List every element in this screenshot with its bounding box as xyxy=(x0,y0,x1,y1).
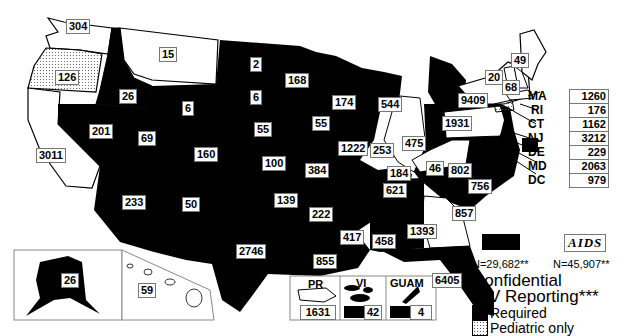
label-ky: 184 xyxy=(387,166,411,181)
label-tn: 621 xyxy=(383,183,407,198)
label-ks: 100 xyxy=(262,156,286,171)
label-mt: 15 xyxy=(159,47,177,62)
side-abbr-md: MD xyxy=(528,159,547,173)
side-abbr-de: DE xyxy=(528,145,545,159)
label-mi: 544 xyxy=(378,97,402,112)
label-wy: 6 xyxy=(182,101,194,116)
label-la: 855 xyxy=(313,254,337,269)
side-abbr-nj: NJ xyxy=(528,131,543,145)
hiv-legend-box xyxy=(482,234,520,250)
label-az: 233 xyxy=(122,195,146,210)
label-id: 26 xyxy=(119,89,137,104)
label-ms: 417 xyxy=(340,230,364,245)
side-value-md: 2063 xyxy=(569,159,609,174)
label-wa: 304 xyxy=(66,19,90,34)
territory-value-guam: 4 xyxy=(410,305,432,320)
label-ak: 26 xyxy=(61,273,79,288)
label-tx: 2746 xyxy=(236,244,266,259)
label-or: 126 xyxy=(55,70,79,85)
label-ca: 3011 xyxy=(36,148,66,163)
legend-label-pediatric: Pediatric only xyxy=(490,320,574,336)
side-value-ri: 176 xyxy=(569,103,609,118)
territory-label-vi: VI xyxy=(356,277,366,289)
label-ia: 55 xyxy=(312,116,330,131)
label-co: 160 xyxy=(194,147,218,162)
label-nd: 2 xyxy=(250,57,262,72)
side-value-nj: 3212 xyxy=(569,131,609,146)
label-nh: 68 xyxy=(502,80,520,95)
label-ar: 222 xyxy=(309,207,333,222)
side-abbr-ct: CT xyxy=(528,117,544,131)
side-value-ct: 1162 xyxy=(569,117,609,132)
label-va: 802 xyxy=(448,163,472,178)
label-wi: 174 xyxy=(332,95,356,110)
label-sd: 6 xyxy=(250,90,262,105)
label-nm: 50 xyxy=(182,197,200,212)
label-ut: 69 xyxy=(138,131,156,146)
aids-legend-box: AIDS xyxy=(564,234,606,252)
label-pa: 1931 xyxy=(442,116,472,131)
label-sc: 857 xyxy=(452,206,476,221)
label-oh: 475 xyxy=(402,136,426,151)
hiv-count: N=29,682** xyxy=(472,258,529,270)
side-value-de: 229 xyxy=(569,145,609,160)
legend-item-required: Required xyxy=(472,305,547,321)
label-ny: 9409 xyxy=(458,93,488,108)
side-abbr-dc: DC xyxy=(528,173,545,187)
label-vt: 20 xyxy=(485,70,503,85)
label-me: 49 xyxy=(511,53,529,68)
label-mn: 168 xyxy=(285,73,309,88)
label-mo: 384 xyxy=(305,163,329,178)
label-ne: 55 xyxy=(254,122,272,137)
legend-item-pediatric: Pediatric only xyxy=(472,320,574,336)
label-hi: 59 xyxy=(138,283,156,298)
required-swatch-icon xyxy=(472,305,488,321)
side-value-dc: 979 xyxy=(569,173,609,188)
territory-value-vi: 42 xyxy=(364,305,382,320)
side-value-ma: 1260 xyxy=(569,89,609,104)
side-abbr-ri: RI xyxy=(531,103,543,117)
label-nv: 201 xyxy=(89,124,113,139)
label-ok: 139 xyxy=(274,193,298,208)
territory-label-guam: GUAM xyxy=(390,277,424,289)
label-wv: 46 xyxy=(426,161,444,176)
aids-count: N=45,907** xyxy=(553,258,610,270)
label-nc: 756 xyxy=(468,179,492,194)
label-al: 458 xyxy=(372,234,396,249)
legend-label-required: Required xyxy=(490,305,547,321)
territory-label-pr: PR xyxy=(308,278,323,290)
legend-title-line2: HIV Reporting*** xyxy=(472,288,599,306)
label-il: 1222 xyxy=(338,141,368,156)
label-fl: 6405 xyxy=(432,273,462,288)
pediatric-swatch-icon xyxy=(472,320,488,336)
territory-value-pr: 1631 xyxy=(300,305,336,320)
label-ga: 1393 xyxy=(407,224,437,239)
side-abbr-ma: MA xyxy=(528,89,547,103)
label-in: 253 xyxy=(370,143,394,158)
